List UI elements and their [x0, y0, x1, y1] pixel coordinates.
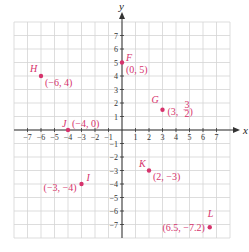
point-marker-icon: [79, 182, 83, 186]
y-tick-label: 6: [114, 45, 118, 54]
x-tick-label: 4: [174, 133, 178, 142]
y-tick-label: 3: [114, 86, 118, 95]
point-marker-icon: [208, 225, 212, 229]
point-name: H: [29, 63, 38, 74]
y-tick-label: −7: [109, 221, 118, 230]
y-tick-label: −4: [109, 180, 118, 189]
y-tick-label: −6: [109, 207, 118, 216]
x-tick-label: −2: [91, 133, 100, 142]
x-tick-label: 6: [201, 133, 205, 142]
y-tick-label: 7: [114, 32, 118, 41]
x-tick-label: −5: [50, 133, 59, 142]
point-name: K: [138, 158, 147, 169]
y-tick-label: 1: [114, 113, 118, 122]
y-tick-label: 2: [114, 99, 118, 108]
x-axis-arrow-icon: [233, 127, 240, 133]
point-coordinates: (−3, −4): [44, 182, 77, 194]
x-tick-label: 1: [134, 133, 138, 142]
y-tick-label: 5: [114, 59, 118, 68]
x-tick-label: −4: [64, 133, 73, 142]
point-coordinates: (−4, 0): [72, 118, 99, 130]
point-marker-icon: [147, 168, 151, 172]
point-k: K(2, −3): [138, 158, 180, 183]
x-tick-label: 3: [161, 133, 165, 142]
point-marker-icon: [160, 108, 164, 112]
point-coordinates: (6.5, −7.2): [162, 222, 204, 234]
x-tick-label: 2: [147, 133, 151, 142]
y-axis-label: y: [118, 0, 124, 12]
point-coordinates: (−6, 4): [45, 77, 72, 89]
point-marker-icon: [39, 74, 43, 78]
data-points: F(0, 5)G(3, 32)H(−6, 4)I(−3, −4)J(−4, 0)…: [29, 52, 214, 235]
point-name: F: [125, 52, 133, 63]
y-tick-label: −5: [109, 194, 118, 203]
point-name: G: [152, 94, 159, 105]
point-marker-icon: [120, 60, 124, 64]
point-name: J: [62, 118, 67, 129]
coordinate-plane: xy −7−6−5−4−3−2−112345677654321−1−2−3−4−…: [0, 0, 249, 252]
point-l: L(6.5, −7.2): [162, 208, 213, 234]
y-tick-label: −2: [109, 153, 118, 162]
svg-text:): ): [190, 106, 193, 118]
y-tick-label: −1: [109, 140, 118, 149]
point-f: F(0, 5): [120, 52, 148, 76]
x-tick-label: −3: [77, 133, 86, 142]
point-marker-icon: [66, 128, 70, 132]
point-coordinates: (0, 5): [126, 64, 148, 76]
point-name: L: [207, 208, 214, 219]
point-coordinates: (2, −3): [153, 171, 180, 183]
y-tick-label: 4: [114, 72, 118, 81]
point-name: I: [86, 172, 91, 183]
point-coordinates: (3,: [168, 106, 179, 118]
point-i: I(−3, −4): [44, 172, 91, 194]
point-g: G(3, 32): [152, 94, 193, 119]
x-tick-label: −7: [23, 133, 32, 142]
x-tick-label: 5: [188, 133, 192, 142]
x-axis-label: x: [242, 124, 248, 136]
x-tick-label: 7: [215, 133, 219, 142]
y-axis-arrow-icon: [119, 12, 125, 19]
y-tick-label: −3: [109, 167, 118, 176]
x-tick-label: −6: [37, 133, 46, 142]
